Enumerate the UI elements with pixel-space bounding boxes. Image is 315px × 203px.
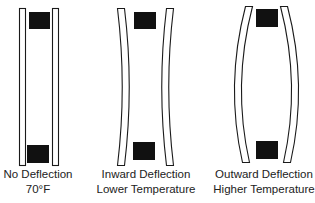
panel-no-deflection — [20, 9, 59, 166]
left-glass-pane-curved-inward — [118, 9, 130, 166]
panel-outward-deflection — [234, 7, 298, 163]
left-glass-pane — [20, 9, 26, 166]
top-spacer — [29, 12, 50, 29]
bottom-spacer — [256, 141, 278, 159]
caption-title: No Deflection — [0, 167, 78, 182]
caption-no-deflection: No Deflection 70°F — [0, 167, 78, 197]
right-glass-pane — [53, 9, 59, 166]
caption-title: Outward Deflection — [208, 167, 315, 182]
top-spacer — [256, 9, 278, 27]
bottom-spacer — [133, 142, 155, 160]
caption-subtitle: Lower Temperature — [96, 182, 196, 197]
left-glass-pane-curved-outward — [234, 7, 252, 163]
caption-title: Inward Deflection — [96, 167, 196, 182]
bottom-spacer — [27, 145, 49, 163]
right-glass-pane-curved-inward — [162, 9, 174, 166]
caption-subtitle: Higher Temperature — [208, 182, 315, 197]
top-spacer — [134, 12, 156, 29]
caption-inward-deflection: Inward Deflection Lower Temperature — [96, 167, 196, 197]
panel-inward-deflection — [118, 9, 174, 166]
caption-subtitle: 70°F — [0, 182, 78, 197]
caption-outward-deflection: Outward Deflection Higher Temperature — [208, 167, 315, 197]
right-glass-pane-curved-outward — [281, 7, 299, 163]
